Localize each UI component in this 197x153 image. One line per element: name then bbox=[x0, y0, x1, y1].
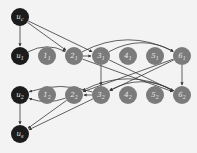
node-n52: 52 bbox=[146, 86, 164, 104]
edges-layer bbox=[20, 21, 182, 130]
node-n62: 62 bbox=[173, 86, 191, 104]
node-us: us bbox=[11, 125, 29, 143]
graph-svg: ucu1112131415161u2122232425262us bbox=[0, 0, 197, 153]
graph-diagram: ucu1112131415161u2122232425262us bbox=[0, 0, 197, 153]
node-n21: 21 bbox=[65, 47, 83, 65]
node-n51: 51 bbox=[146, 47, 164, 65]
node-n22: 22 bbox=[65, 86, 83, 104]
node-n32: 32 bbox=[92, 86, 110, 104]
node-u1: u1 bbox=[11, 47, 29, 65]
node-n42: 42 bbox=[119, 86, 137, 104]
node-n31: 31 bbox=[92, 47, 110, 65]
node-n41: 41 bbox=[119, 47, 137, 65]
node-n11: 11 bbox=[38, 47, 56, 65]
node-n61: 61 bbox=[173, 47, 191, 65]
node-n12: 12 bbox=[38, 86, 56, 104]
edge-uc-to-n31 bbox=[28, 21, 92, 52]
node-uc: uc bbox=[11, 8, 29, 26]
node-u2: u2 bbox=[11, 86, 29, 104]
edge-n32-to-us bbox=[29, 99, 93, 130]
